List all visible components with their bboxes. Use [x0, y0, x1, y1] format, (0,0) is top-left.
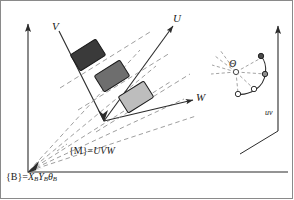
frame-b-label: {B}=XBYBθB: [6, 172, 57, 183]
arc-node-2[interactable]: [262, 71, 267, 76]
inset-diagram: [211, 26, 278, 154]
inset-axis-label-uv: uv: [265, 109, 273, 117]
axis-label-u: U: [173, 13, 181, 24]
block-2[interactable]: [94, 60, 130, 92]
block-corridor-guides: [60, 32, 190, 132]
arc-node-4[interactable]: [235, 91, 240, 96]
arc-node-1[interactable]: [258, 53, 263, 58]
inset-ray-7: [236, 72, 254, 89]
block-1[interactable]: [70, 39, 106, 71]
fan-ray-4: [29, 99, 184, 171]
arc-node-3[interactable]: [251, 86, 256, 91]
frame-b-prefix: {B}: [6, 171, 22, 182]
inset-ray-8: [236, 72, 238, 93]
inset-ray-5: [236, 58, 261, 72]
axis-label-w: W: [196, 92, 205, 103]
axis-label-v: V: [52, 21, 59, 32]
kinematic-frames-figure: V U W Θ uv {M}=UVW {B}=XBYBθB: [0, 0, 294, 200]
block-3[interactable]: [118, 81, 154, 113]
inset-ray-3: [211, 72, 236, 74]
theta-angle-label: Θ: [229, 59, 236, 69]
inset-ground-line: [240, 131, 278, 154]
inset-ray-6: [236, 72, 265, 74]
frame-m-label: {M}=UVW: [69, 146, 115, 156]
inset-hub-node[interactable]: [233, 69, 238, 74]
fan-ray-5: [29, 116, 196, 171]
frame-m-prefix: {M}: [69, 145, 88, 156]
frame-m-value: UVW: [93, 145, 115, 156]
diagram-canvas: [0, 0, 294, 200]
frame-b-theta-subscript: B: [53, 175, 57, 182]
